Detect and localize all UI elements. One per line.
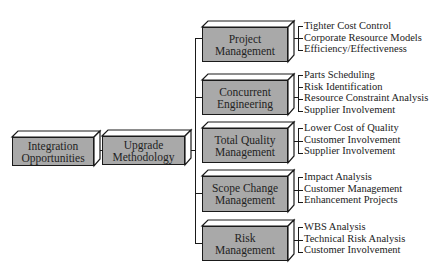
list-item: Tighter Cost Control [304,20,422,32]
bracket-tick [298,26,303,27]
bracket-tick [298,111,303,112]
box-label: Management [215,244,275,256]
box-label: Project [229,33,262,45]
list-item: Customer Involvement [304,134,401,146]
bracket-tick [298,141,303,142]
item-list-total-quality-management: Lower Cost of Quality Customer Involveme… [304,122,401,157]
list-item: Customer Management [304,183,402,195]
box-label: Methodology [113,151,175,163]
bracket-tick [298,202,303,203]
list-item: Impact Analysis [304,171,402,183]
item-list-risk-management: WBS Analysis Technical Risk Analysis Cus… [304,221,405,256]
bracket-tick [298,75,303,76]
box-total-quality-management: Total QualityManagement [202,122,294,163]
box-risk-management: RiskManagement [202,220,294,261]
box-front: Total QualityManagement [202,128,288,163]
box-label: Integration [28,140,78,152]
box-upgrade-methodology: UpgradeMethodology [102,130,191,165]
bracket-tick [298,227,303,228]
list-item: WBS Analysis [304,221,405,233]
box-scope-change-management: Scope ChangeManagement [202,170,294,212]
item-list-scope-change-management: Impact Analysis Customer Management Enha… [304,171,402,206]
box-label: Risk [234,232,255,244]
item-list-project-management: Tighter Cost Control Corporate Resource … [304,20,422,55]
item-list-concurrent-engineering: Parts Scheduling Risk Identification Res… [304,69,428,115]
box-label: Scope Change [212,182,278,194]
box-front: RiskManagement [202,226,288,261]
box-label: Management [215,45,275,57]
list-item: Corporate Resource Models [304,32,422,44]
box-label: Opportunities [21,152,84,164]
bracket-tick [298,240,303,241]
trunk-vertical [195,38,196,244]
list-item: Technical Risk Analysis [304,233,405,245]
box-project-management: ProjectManagement [202,21,294,62]
bracket-tick [298,252,303,253]
box-front: UpgradeMethodology [102,136,185,165]
bracket-tick [298,38,303,39]
bracket-tick [298,177,303,178]
bracket-1 [298,75,299,111]
box-label: Concurrent [219,86,271,98]
list-item: Parts Scheduling [304,69,428,81]
box-concurrent-engineering: ConcurrentEngineering [202,74,294,115]
box-front: IntegrationOpportunities [12,137,94,166]
list-item: Risk Identification [304,81,428,93]
list-item: Efficiency/Effectiveness [304,43,422,55]
bracket-tick [298,153,303,154]
box-label: Management [215,194,275,206]
list-item: Enhancement Projects [304,194,402,206]
list-item: Resource Constraint Analysis [304,92,428,104]
box-front: ConcurrentEngineering [202,80,288,115]
box-integration-opportunities: IntegrationOpportunities [12,131,100,166]
methodology-diagram: IntegrationOpportunities UpgradeMethodol… [0,0,432,273]
bracket-tick [298,190,303,191]
bracket-tick [298,99,303,100]
bracket-tick [298,87,303,88]
box-label: Upgrade [124,139,164,151]
list-item: Supplier Involvement [304,104,428,116]
box-front: ProjectManagement [202,27,288,62]
box-front: Scope ChangeManagement [202,176,288,212]
bracket-tick [298,50,303,51]
box-label: Management [215,146,275,158]
list-item: Customer Involvement [304,244,405,256]
bracket-tick [298,128,303,129]
box-label: Total Quality [215,134,276,146]
list-item: Lower Cost of Quality [304,122,401,134]
box-label: Engineering [217,98,273,110]
list-item: Supplier Involvement [304,145,401,157]
